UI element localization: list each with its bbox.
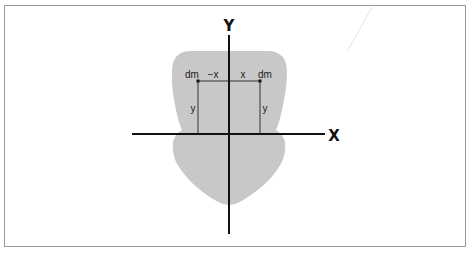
left-dm-label: dm — [185, 69, 199, 80]
left-y-label: y — [191, 103, 196, 114]
right-dm-label: dm — [258, 69, 272, 80]
symmetry-diagram: Y X dm −x x dm y y — [0, 0, 474, 254]
y-axis-label: Y — [223, 17, 236, 35]
right-y-label: y — [263, 103, 268, 114]
right-x-label: x — [241, 69, 246, 80]
x-axis-label: X — [328, 127, 340, 145]
left-neg-x-label: −x — [208, 69, 219, 80]
scratch-mark — [348, 7, 372, 50]
